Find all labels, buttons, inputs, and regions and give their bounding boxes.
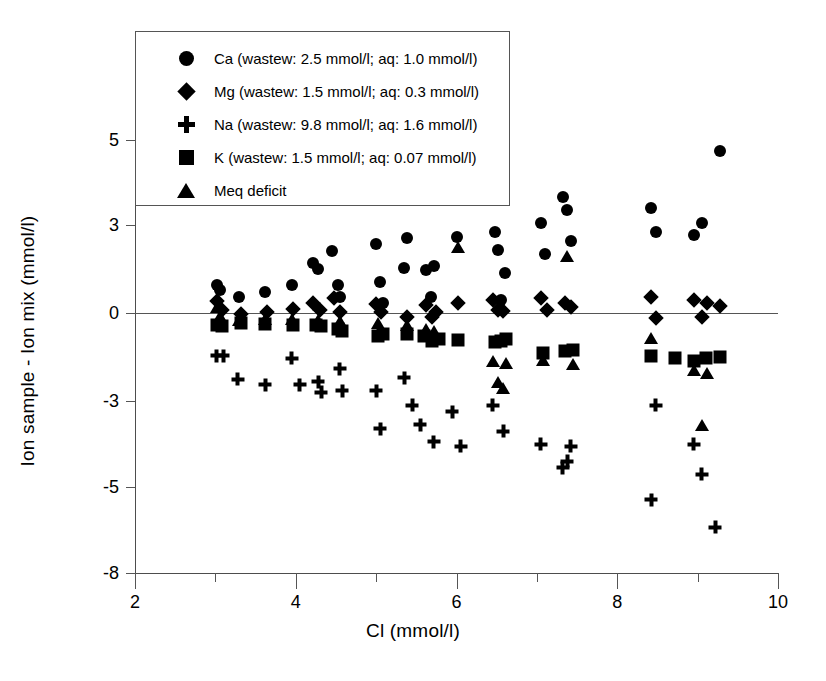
data-point-mg — [285, 302, 301, 318]
x-axis-title: Cl (mmol/l) — [0, 620, 826, 642]
data-point-mg — [312, 302, 328, 318]
data-point-ca — [714, 145, 726, 157]
y-axis-title: Ion sample - Ion mix (mmol/l) — [8, 0, 48, 681]
data-point-na — [446, 405, 459, 418]
data-point-k — [309, 319, 322, 332]
data-point-k — [699, 352, 712, 365]
legend-item-label: K (wastew: 1.5 mmol/l; aq: 0.07 mmol/l) — [214, 150, 477, 165]
data-point-ca — [334, 291, 346, 303]
x-tick-label: 2 — [130, 593, 140, 611]
data-point-meq-deficit — [700, 367, 714, 379]
data-point-na — [259, 378, 272, 391]
data-point-na — [312, 375, 325, 388]
data-point-k — [559, 345, 572, 358]
data-point-na — [486, 399, 499, 412]
data-point-ca — [451, 231, 463, 243]
data-point-ca — [401, 232, 413, 244]
data-point-meq-deficit — [333, 315, 347, 327]
data-point-mg — [643, 289, 659, 305]
data-point-na — [293, 378, 306, 391]
data-point-na — [406, 399, 419, 412]
x-tick — [537, 573, 538, 582]
x-tick — [617, 573, 618, 589]
data-point-mg — [214, 302, 230, 318]
data-point-k — [210, 318, 223, 331]
data-point-ca — [332, 279, 344, 291]
data-point-ca — [535, 217, 547, 229]
data-point-na — [315, 386, 328, 399]
data-point-mg — [259, 304, 275, 320]
data-point-na — [709, 521, 722, 534]
y-tick: 3 — [126, 225, 135, 226]
data-point-ca — [489, 226, 501, 238]
data-point-na — [564, 440, 577, 453]
data-point-k — [494, 334, 507, 347]
data-point-na — [217, 349, 230, 362]
data-point-na — [333, 362, 346, 375]
data-point-mg — [373, 304, 389, 320]
data-point-k — [432, 332, 445, 345]
data-point-ca — [398, 262, 410, 274]
data-point-k — [331, 323, 344, 336]
data-point-meq-deficit — [285, 313, 299, 325]
data-point-ca — [211, 279, 223, 291]
data-point-k — [286, 318, 299, 331]
data-point-na — [398, 371, 411, 384]
data-point-na — [645, 493, 658, 506]
data-point-k — [452, 333, 465, 346]
triangle-icon — [158, 183, 214, 198]
data-point-meq-deficit — [491, 376, 505, 388]
data-point-k — [418, 330, 431, 343]
data-point-ca — [312, 263, 324, 275]
data-point-meq-deficit — [566, 358, 580, 370]
data-point-ca — [428, 260, 440, 272]
data-point-k — [235, 317, 248, 330]
x-tick — [296, 573, 297, 589]
data-point-mg — [429, 304, 445, 320]
x-tick — [778, 573, 779, 589]
data-point-k — [567, 343, 580, 356]
data-point-na — [649, 399, 662, 412]
data-point-meq-deficit — [419, 323, 433, 335]
data-point-k — [376, 328, 389, 341]
data-point-k — [215, 320, 228, 333]
x-tick — [215, 573, 216, 582]
data-point-mg — [485, 292, 501, 308]
data-point-meq-deficit — [258, 313, 272, 325]
data-point-k — [400, 327, 413, 340]
data-point-mg — [233, 307, 249, 323]
data-point-ca — [377, 297, 389, 309]
data-point-ca — [650, 226, 662, 238]
data-point-ca — [696, 217, 708, 229]
data-point-mg — [495, 303, 511, 319]
y-tick-label: -8 — [103, 564, 119, 582]
data-point-meq-deficit — [644, 332, 658, 344]
data-point-ca — [214, 284, 226, 296]
legend-item-label: Meq deficit — [214, 183, 287, 198]
x-tick-label: 4 — [291, 593, 301, 611]
data-point-ca — [565, 235, 577, 247]
data-point-mg — [418, 297, 434, 313]
y-tick: -8 — [126, 573, 135, 574]
data-point-meq-deficit — [427, 325, 441, 337]
data-point-mg — [327, 291, 343, 307]
data-point-ca — [326, 245, 338, 257]
data-point-k — [669, 351, 682, 364]
data-point-na — [556, 461, 569, 474]
x-tick-label: 8 — [612, 593, 622, 611]
data-point-ca — [539, 248, 551, 260]
legend-item: K (wastew: 1.5 mmol/l; aq: 0.07 mmol/l) — [136, 141, 509, 174]
data-point-mg — [399, 310, 415, 326]
data-point-mg — [332, 304, 348, 320]
data-point-ca — [688, 229, 700, 241]
y-tick-label: -3 — [103, 392, 119, 410]
y-tick-label: 5 — [109, 131, 119, 149]
legend-item: Na (wastew: 9.8 mmol/l; aq: 1.6 mmol/l) — [136, 108, 509, 141]
data-point-meq-deficit — [311, 314, 325, 326]
data-point-na — [534, 438, 547, 451]
data-point-ca — [233, 291, 245, 303]
data-point-ca — [420, 264, 432, 276]
data-point-mg — [712, 298, 728, 314]
data-point-mg — [425, 309, 441, 325]
data-point-na — [561, 455, 574, 468]
